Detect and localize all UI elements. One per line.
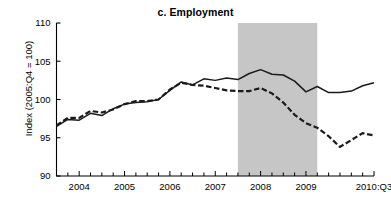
x-tick-label: 2009 — [295, 181, 316, 192]
x-tick-label: 2005 — [114, 181, 135, 192]
recession-shading-layer — [238, 23, 317, 176]
plot-area: 9095100105110 20042005200620072008200920… — [0, 0, 391, 201]
x-tick-label: 2007 — [205, 181, 226, 192]
axis-spines — [57, 23, 375, 176]
y-tick-label: 90 — [40, 170, 51, 181]
data-series-layer — [57, 70, 375, 147]
x-tick-label: 2010:Q3 — [356, 181, 391, 192]
y-tick-label: 100 — [35, 94, 51, 105]
x-tick-label: 2004 — [69, 181, 90, 192]
axis-layer — [57, 23, 375, 176]
x-tick-label: 2006 — [159, 181, 180, 192]
y-tick-label: 105 — [35, 56, 51, 67]
y-tick-label-layer: 9095100105110 — [35, 17, 51, 181]
x-tick-label: 2008 — [250, 181, 271, 192]
tick-mark-layer — [57, 23, 375, 176]
y-tick-label: 95 — [40, 132, 51, 143]
employment-index-chart: c. Employment Index (2005:Q4 = 100) 9095… — [0, 0, 391, 201]
x-tick-label-layer: 2004200520062007200820092010:Q3 — [69, 181, 391, 192]
recession-band — [238, 23, 317, 176]
y-tick-label: 110 — [35, 17, 50, 28]
solid-series — [57, 70, 375, 127]
